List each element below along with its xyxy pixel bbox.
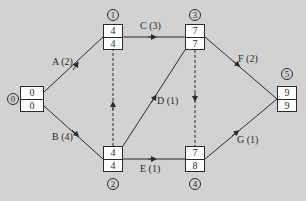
label-d: D (1): [157, 95, 178, 106]
node-4-latest: 8: [186, 160, 204, 172]
node-2-id: 2: [107, 178, 119, 190]
label-b: B (4): [52, 131, 73, 142]
node-2: 4 4: [103, 146, 123, 172]
node-3: 7 7: [185, 24, 205, 50]
node-2-earliest: 4: [104, 147, 122, 160]
node-0-id: 0: [7, 93, 19, 105]
label-g: G (1): [237, 134, 258, 145]
edge-f: [205, 37, 277, 99]
node-5-earliest: 9: [278, 87, 296, 100]
node-2-latest: 4: [104, 160, 122, 172]
label-c: C (3): [140, 20, 161, 31]
node-4-earliest: 7: [186, 147, 204, 160]
node-5-id: 5: [281, 68, 293, 80]
label-a: A (2): [52, 56, 73, 67]
node-5-latest: 9: [278, 100, 296, 112]
node-1-latest: 4: [104, 38, 122, 50]
label-e: E (1): [140, 163, 160, 174]
edge-g: [205, 99, 277, 159]
node-1-id: 1: [107, 9, 119, 21]
node-1-earliest: 4: [104, 25, 122, 38]
node-4: 7 8: [185, 146, 205, 172]
node-0-latest: 0: [21, 100, 43, 112]
node-4-id: 4: [189, 178, 201, 190]
node-0-earliest: 0: [21, 87, 43, 100]
node-3-latest: 7: [186, 38, 204, 50]
network-diagram: 0 0 0 1 4 4 2 4 4 3 7 7 4 7 8 5 9 9 A (2…: [0, 0, 306, 201]
node-3-earliest: 7: [186, 25, 204, 38]
node-1: 4 4: [103, 24, 123, 50]
node-3-id: 3: [189, 9, 201, 21]
node-5: 9 9: [277, 86, 297, 112]
label-f: F (2): [238, 53, 258, 64]
node-0: 0 0: [20, 86, 44, 112]
